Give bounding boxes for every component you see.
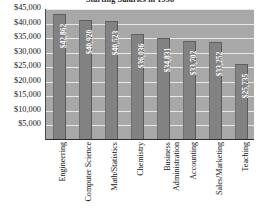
bar-slot: $40,523	[98, 9, 124, 139]
bar-chart: Starting Salaries in 1998 $45,000$40,000…	[0, 0, 258, 224]
x-axis-slot: Computer Science	[71, 142, 97, 224]
bar-value-label: $25,735	[241, 74, 250, 99]
y-axis-tick-label: $15,000	[14, 91, 41, 99]
y-axis-tick-label: $45,000	[14, 4, 41, 12]
bar-slot: $36,036	[124, 9, 150, 139]
bar-value-label: $33,702	[189, 51, 198, 76]
x-axis-slot: Math/Statistics	[97, 142, 123, 224]
x-axis-slot: Teaching	[228, 142, 254, 224]
x-axis-slot: Accounting	[176, 142, 202, 224]
bar-slot: $34,831	[150, 9, 176, 139]
y-axis-tick-label: $25,000	[14, 62, 41, 70]
bar-value-label: $40,523	[111, 31, 120, 56]
bars-layer: $42,862$40,920$40,523$36,036$34,831$33,7…	[46, 9, 254, 139]
y-axis-tick-label: $30,000	[14, 48, 41, 56]
x-axis-slot: Engineering	[45, 142, 71, 224]
bar-value-label: $36,036	[137, 44, 146, 69]
bar-slot: $42,862	[46, 9, 72, 139]
x-axis-category-label: Business	[163, 142, 173, 171]
x-axis-category-label: Math/Statistics	[110, 142, 120, 191]
x-axis-slot: BusinessAdministration	[150, 142, 176, 224]
y-axis: $45,000$40,000$35,000$30,000$25,000$20,0…	[0, 8, 44, 139]
x-axis-category-label: Chemistry	[136, 142, 146, 176]
x-axis-category-label: Sales/Marketing	[215, 142, 225, 195]
x-axis-category-label: Engineering	[58, 142, 68, 182]
bar[interactable]: $40,920	[79, 20, 92, 139]
bar[interactable]: $33,252	[209, 42, 222, 139]
bar-value-label: $42,862	[59, 24, 68, 49]
bar-value-label: $33,252	[215, 52, 224, 77]
x-axis-slot: Chemistry	[123, 142, 149, 224]
bar[interactable]: $34,831	[157, 38, 170, 139]
bar-value-label: $34,831	[163, 47, 172, 72]
bar-slot: $40,920	[72, 9, 98, 139]
plot-area: $42,862$40,920$40,523$36,036$34,831$33,7…	[45, 9, 254, 140]
bar[interactable]: $25,735	[235, 64, 248, 139]
x-axis-category-label: Accounting	[189, 142, 199, 180]
bar-slot: $33,252	[202, 9, 228, 139]
x-axis-category-label: Teaching	[241, 142, 251, 172]
y-axis-tick-label: $35,000	[14, 33, 41, 41]
bar[interactable]: $40,523	[105, 21, 118, 139]
bar-slot: $33,702	[176, 9, 202, 139]
bar[interactable]: $36,036	[131, 34, 144, 139]
y-axis-tick-label: $5,000	[18, 120, 41, 128]
x-axis-slot: Sales/Marketing	[202, 142, 228, 224]
bar[interactable]: $42,862	[53, 14, 66, 139]
bar-value-label: $40,920	[85, 30, 94, 55]
chart-title: Starting Salaries in 1998	[40, 0, 220, 4]
y-axis-tick-label: $20,000	[14, 77, 41, 85]
y-axis-tick-label: $40,000	[14, 19, 41, 27]
x-axis-category-label: Computer Science	[84, 142, 94, 202]
bar[interactable]: $33,702	[183, 41, 196, 139]
bar-slot: $25,735	[228, 9, 254, 139]
y-axis-tick-label: $10,000	[14, 106, 41, 114]
x-axis: EngineeringComputer ScienceMath/Statisti…	[45, 142, 254, 224]
